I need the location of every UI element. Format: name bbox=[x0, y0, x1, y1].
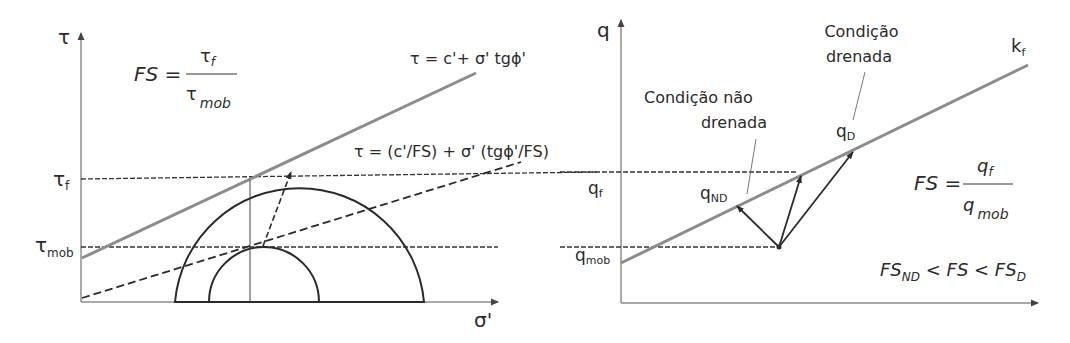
fs-inequality: FSND < FS < FSD bbox=[880, 259, 1026, 284]
envelope-equation-label: τ = c'+ σ' tgϕ' bbox=[410, 49, 526, 68]
mobilized-envelope-line bbox=[82, 162, 521, 298]
tau-f-dashed-line bbox=[81, 172, 598, 179]
fs-formula-q: FS = qf qmob bbox=[914, 155, 1013, 222]
svg-text:FS =: FS = bbox=[134, 62, 181, 86]
drained-path-arrow bbox=[779, 152, 853, 247]
svg-text:FS =: FS = bbox=[914, 171, 961, 195]
q-axis-label: q bbox=[597, 18, 610, 42]
mohr-coulomb-diagram: τ σ' τf τmob FS = τf τmob τ = c'+ σ' tgϕ… bbox=[35, 25, 598, 332]
fs-formula-tau: FS = τf τmob bbox=[134, 45, 237, 111]
initial-stress-point bbox=[777, 245, 782, 250]
q-mob-label: qmob bbox=[575, 245, 610, 267]
stress-path-diagram: q kf qf qmob qND qD Condição não drenada… bbox=[560, 18, 1038, 303]
undrained-condition-label: Condição não drenada bbox=[644, 88, 767, 132]
mobilized-envelope-equation-label: τ = (c'/FS) + σ' (tgϕ'/FS) bbox=[354, 142, 549, 161]
svg-text:τmob: τmob bbox=[186, 83, 231, 111]
tau-axis-label: τ bbox=[58, 25, 70, 49]
q-d-label: qD bbox=[836, 121, 855, 143]
q-nd-label: qND bbox=[700, 183, 728, 205]
undrained-leader-line bbox=[747, 139, 756, 194]
drained-condition-label: Condição drenada bbox=[824, 22, 903, 66]
sigma-axis-label: σ' bbox=[474, 308, 492, 332]
failure-envelope-line bbox=[82, 73, 476, 258]
svg-text:qmob: qmob bbox=[963, 194, 1009, 222]
undrained-path-arrow bbox=[737, 206, 779, 247]
kf-label: kf bbox=[1011, 35, 1026, 59]
mohr-circle-small bbox=[209, 247, 319, 302]
soil-strength-diagram: τ σ' τf τmob FS = τf τmob τ = c'+ σ' tgϕ… bbox=[0, 0, 1070, 343]
svg-text:qf: qf bbox=[977, 155, 994, 179]
tau-mob-label: τmob bbox=[35, 233, 74, 260]
stress-path-dashed-arrow bbox=[263, 172, 291, 246]
svg-text:τf: τf bbox=[200, 45, 217, 69]
drained-leader-line bbox=[853, 72, 865, 120]
intermediate-path-arrow bbox=[779, 176, 801, 247]
q-f-label: qf bbox=[588, 178, 604, 200]
tau-f-label: τf bbox=[53, 167, 70, 193]
